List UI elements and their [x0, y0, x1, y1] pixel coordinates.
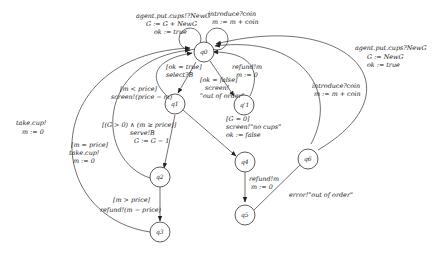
svg-text:refund!(m − price): refund!(m − price) — [100, 206, 162, 214]
svg-text:[m < price]: [m < price] — [120, 85, 158, 93]
label-q4-q5: refund!m m := 0 — [249, 175, 279, 191]
svg-text:"out of order": "out of order" — [200, 92, 245, 100]
label-q1-q0: [m < price] screen!(price − m) — [111, 85, 173, 101]
svg-text:serve!B: serve!B — [130, 129, 155, 137]
svg-text:ok := true: ok := true — [367, 61, 400, 69]
svg-text:G := G − 1: G := G − 1 — [134, 137, 169, 145]
svg-text:take.cup!: take.cup! — [69, 149, 100, 157]
state-machine-diagram: q0 q1 q'1 q2 q3 q4 q5 q6 agent.put.cups!… — [0, 0, 439, 256]
state-label: q'1 — [240, 101, 249, 109]
svg-text:agent.put.cups!?NewG: agent.put.cups!?NewG — [136, 12, 210, 20]
svg-text:m := m + coin: m := m + coin — [212, 18, 259, 26]
svg-text:G := G + NewG: G := G + NewG — [146, 20, 197, 28]
svg-text:[ok = true]: [ok = true] — [166, 63, 202, 71]
svg-text:screen!"no cups": screen!"no cups" — [226, 123, 281, 131]
svg-text:G := NewG: G := NewG — [367, 53, 404, 61]
svg-text:[m > price]: [m > price] — [113, 196, 151, 204]
state-label: q1 — [171, 100, 179, 108]
svg-text:m := 0: m := 0 — [22, 128, 44, 136]
label-q0-q1: [ok = true] select?B — [166, 63, 202, 79]
svg-text:m := 0: m := 0 — [236, 71, 258, 79]
svg-text:refund!m: refund!m — [249, 175, 279, 183]
svg-text:introduce?coin: introduce?coin — [208, 10, 256, 18]
svg-text:[ok = false]: [ok = false] — [200, 76, 238, 84]
label-q1-q4: [G = 0] screen!"no cups" ok := false — [226, 115, 281, 139]
state-label: q6 — [304, 155, 312, 163]
state-q5: q5 — [235, 205, 255, 225]
svg-text:[G = 0]: [G = 0] — [226, 115, 250, 123]
label-q3-q0: take.cup! m := 0 — [16, 119, 47, 136]
svg-text:ok := false: ok := false — [226, 131, 261, 139]
state-label: q0 — [200, 48, 208, 56]
label-q6-q0-agent: agent.put.cups?NewG G := NewG ok := true — [355, 44, 427, 69]
state-q3: q3 — [150, 222, 170, 242]
state-label: q4 — [241, 158, 249, 166]
svg-text:screen!: screen! — [205, 84, 230, 92]
label-self-introduce: introduce?coin m := m + coin — [208, 10, 259, 26]
state-q0: q0 — [194, 42, 214, 62]
state-q6: q6 — [298, 149, 318, 169]
state-label: q3 — [156, 228, 164, 236]
svg-text:refund!m: refund!m — [232, 63, 262, 71]
svg-text:ok := true: ok := true — [154, 28, 187, 36]
svg-text:m := m + coin: m := m + coin — [314, 90, 361, 98]
state-label: q2 — [156, 173, 164, 181]
svg-text:select?B: select?B — [166, 71, 193, 79]
label-q1prime-q0: refund!m m := 0 — [232, 63, 262, 79]
svg-text:agent.put.cups?NewG: agent.put.cups?NewG — [355, 44, 427, 52]
label-q2-q0: [m = price] take.cup! m := 0 — [69, 141, 109, 165]
label-q5-q6: error!"out of order" — [289, 191, 353, 199]
svg-text:error!"out of order": error!"out of order" — [289, 191, 353, 199]
svg-text:introduce?coin: introduce?coin — [312, 82, 360, 90]
svg-text:[(G > 0) ∧ (m ≥ price)]: [(G > 0) ∧ (m ≥ price)] — [102, 121, 177, 129]
svg-text:m := 0: m := 0 — [251, 183, 273, 191]
svg-text:take.cup!: take.cup! — [16, 119, 47, 127]
label-q0-q1prime: [ok = false] screen! "out of order" — [200, 76, 245, 100]
svg-text:[m = price]: [m = price] — [71, 141, 109, 149]
label-q2-q3: [m > price] refund!(m − price) — [100, 196, 162, 214]
state-q4: q4 — [235, 152, 255, 172]
state-label: q5 — [241, 211, 249, 219]
svg-text:screen!(price − m): screen!(price − m) — [111, 93, 173, 101]
label-q6-q0-introduce: introduce?coin m := m + coin — [312, 82, 361, 98]
state-q2: q2 — [150, 167, 170, 187]
svg-text:m := 0: m := 0 — [73, 157, 95, 165]
